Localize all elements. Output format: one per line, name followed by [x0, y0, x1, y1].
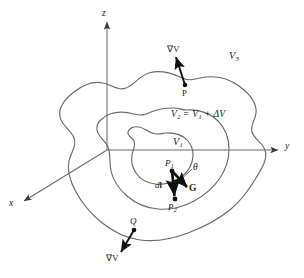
grad-v-label-top: ∇V	[167, 45, 180, 54]
diagram-svg	[0, 0, 304, 278]
equipotential-surface-outer	[60, 72, 266, 241]
contour-path-middle	[97, 108, 229, 209]
point-p1-marker	[170, 169, 175, 174]
point-p2-sub: 2	[174, 207, 177, 213]
dl-l: l	[160, 180, 163, 190]
v2-equals: =	[183, 109, 190, 119]
contour-path-inner	[128, 127, 193, 185]
point-p1-label: P1	[165, 159, 174, 168]
v1-sub-in-eq: 1	[199, 113, 202, 120]
surface-label-v1-sub: 1	[179, 141, 182, 148]
x-axis-line	[24, 150, 107, 201]
dl-vector-label: dl	[155, 181, 162, 190]
grad-v-label-bottom: ∇V	[106, 254, 119, 263]
x-axis-label: x	[9, 199, 13, 209]
surface-label-v3-sub: 3	[235, 55, 238, 62]
point-q-label: Q	[130, 217, 137, 226]
grad-v-arrow-q	[121, 230, 134, 252]
figure-canvas: z y x V3 V2 = V1 + ΔV V1 ∇V P Q ∇V P1 P2…	[0, 0, 304, 278]
v2-delta-v: ΔV	[213, 109, 225, 119]
y-axis-label: y	[285, 142, 289, 152]
equipotential-surface-middle	[97, 108, 229, 209]
theta-angle-label: θ	[193, 163, 198, 173]
vector-grad-v-at-p	[176, 57, 187, 87]
v2-plus: +	[204, 109, 211, 119]
equipotential-surface-inner	[128, 127, 193, 185]
point-p2-marker	[173, 197, 178, 202]
g-vector-label: G	[189, 184, 196, 194]
z-axis-label: z	[102, 9, 106, 19]
point-p1-sub: 1	[171, 163, 174, 169]
point-p-label: P	[182, 89, 187, 98]
surface-label-v2-equation: V2 = V1 + ΔV	[171, 110, 225, 120]
point-p2-label: P2	[168, 203, 177, 212]
surface-label-v1: V1	[173, 137, 183, 147]
contour-path-outer	[60, 72, 266, 241]
v1-base-in-eq: V	[192, 109, 198, 119]
point-p2-base: P	[168, 202, 174, 212]
v2-sub: 2	[177, 113, 180, 120]
surface-label-v3: V3	[229, 51, 239, 61]
vector-grad-v-at-q	[121, 228, 136, 252]
grad-v-arrow-p	[176, 57, 185, 85]
point-p1-base: P	[165, 158, 171, 168]
